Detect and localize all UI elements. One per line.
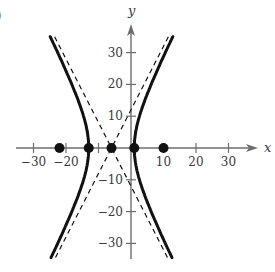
- focus-right-point: [159, 143, 169, 153]
- focus-left-point: [55, 143, 65, 153]
- y-tick-label: −30: [98, 236, 123, 250]
- x-tick-label: 30: [221, 155, 236, 169]
- panel-label: ): [0, 7, 1, 23]
- hyperbola-chart: ) xy −30−20102030302010−10−20−30: [0, 0, 275, 272]
- x-tick-label: −30: [21, 155, 46, 169]
- y-axis-label: y: [127, 3, 136, 18]
- vertex-right-point: [129, 143, 139, 153]
- y-tick-label: −10: [98, 173, 123, 187]
- y-tick-label: −20: [98, 205, 123, 219]
- y-tick-label: 10: [108, 109, 123, 123]
- x-tick-label: 10: [156, 155, 171, 169]
- y-tick-label: 20: [108, 77, 123, 91]
- x-tick-label: 20: [188, 155, 203, 169]
- axes: xy: [16, 3, 272, 259]
- vertex-left-point: [84, 143, 94, 153]
- x-tick-label: −20: [53, 155, 78, 169]
- center-point: [107, 143, 117, 153]
- x-axis-label: x: [264, 140, 272, 155]
- y-tick-label: 30: [108, 46, 123, 60]
